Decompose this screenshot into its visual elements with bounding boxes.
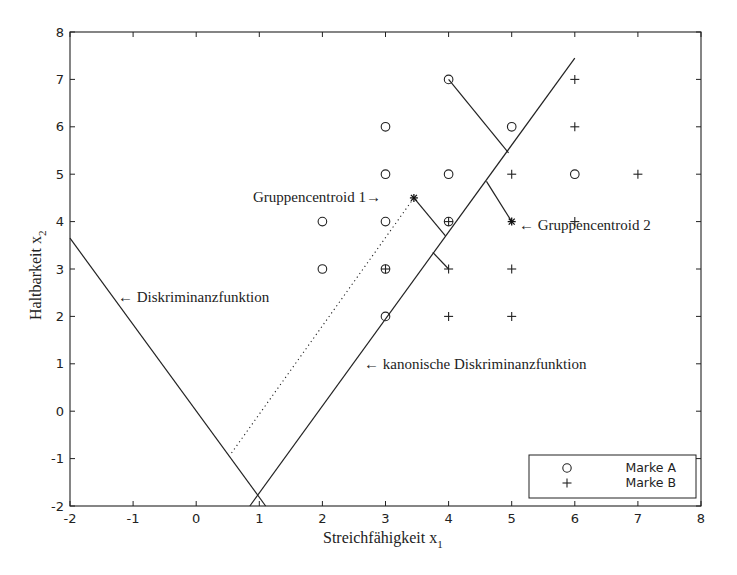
y-tick-label: -1: [51, 451, 64, 466]
projection-line: [433, 252, 449, 269]
y-axis-title: Haltbarkeit x2: [27, 231, 48, 320]
y-tick-label: 3: [56, 262, 64, 277]
annotation-kanonische-diskriminanzfunktion: ← kanonische Diskriminanzfunktion: [364, 356, 587, 372]
function-lines: [70, 58, 575, 506]
x-tick-label: -1: [127, 511, 140, 526]
x-tick-label: 4: [444, 511, 452, 526]
x-tick-label: 2: [318, 511, 326, 526]
scatter-chart: -2-1012345678-2-1012345678 Gruppencentro…: [0, 0, 737, 575]
y-tick-label: 2: [56, 309, 64, 324]
x-tick-label: 6: [571, 511, 579, 526]
x-tick-label: 5: [508, 511, 516, 526]
function-line: [231, 198, 414, 454]
marke-b-point: [444, 312, 453, 321]
function-line: [70, 238, 266, 506]
annotation-centroid-2: ← Gruppencentroid 2: [519, 217, 651, 233]
marke-b-point: [507, 265, 516, 274]
y-tick-label: 5: [56, 167, 64, 182]
annotation-diskriminanzfunktion: ← Diskriminanzfunktion: [118, 289, 270, 305]
marke-a-point: [318, 265, 327, 274]
legend-label-marke-b: Marke B: [625, 475, 676, 490]
marke-a-point: [381, 217, 390, 226]
legend-label-marke-a: Marke A: [625, 460, 676, 475]
x-tick-label: 3: [381, 511, 389, 526]
projection-line: [414, 198, 446, 236]
x-tick-label: -2: [64, 511, 77, 526]
marke-b-point: [570, 75, 579, 84]
projection-line: [486, 181, 511, 221]
marke-a-point: [381, 123, 390, 132]
y-tick-label: 7: [56, 72, 64, 87]
legend: Marke A Marke B: [529, 455, 696, 498]
y-tick-label: 6: [56, 119, 64, 134]
y-tick-label: -2: [51, 499, 64, 514]
centroid-star-icon: [410, 194, 418, 202]
marke-a-point: [381, 170, 390, 179]
y-tick-label: 1: [56, 356, 64, 371]
y-tick-label: 4: [56, 214, 64, 229]
annotation-centroid-1: Gruppencentroid 1→: [253, 189, 381, 205]
y-tick-label: 0: [56, 404, 64, 419]
x-tick-label: 8: [697, 511, 705, 526]
function-line: [250, 58, 575, 506]
marke-a-point: [507, 123, 516, 132]
projection-line: [449, 79, 509, 152]
x-tick-label: 7: [634, 511, 642, 526]
x-axis-title: Streichfähigkeit x1: [323, 529, 443, 550]
marke-b-point: [507, 312, 516, 321]
x-tick-label: 1: [255, 511, 263, 526]
marke-b-point: [633, 170, 642, 179]
x-tick-label: 0: [192, 511, 200, 526]
marke-b-point: [570, 122, 579, 131]
centroid-star-icon: [508, 218, 516, 226]
axes: -2-1012345678-2-1012345678: [51, 25, 705, 527]
marke-a-point: [318, 217, 327, 226]
marke-a-point: [571, 170, 580, 179]
marke-a-point: [444, 170, 453, 179]
marke-b-point: [507, 170, 516, 179]
y-tick-label: 8: [56, 25, 64, 40]
